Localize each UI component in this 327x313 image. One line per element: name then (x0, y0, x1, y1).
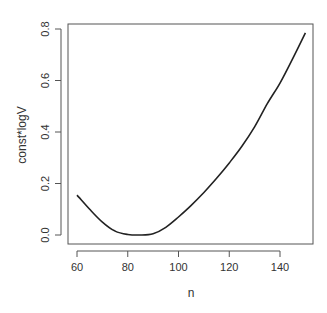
x-axis-label: n (188, 286, 195, 300)
y-tick-label: 0.4 (39, 124, 51, 139)
y-axis: 0.00.20.40.60.8 (39, 21, 61, 242)
x-tick-label: 60 (71, 261, 83, 273)
y-tick-label: 0.6 (39, 73, 51, 88)
y-axis-label: const*logV (15, 106, 29, 163)
y-tick-label: 0.8 (39, 21, 51, 36)
x-tick-label: 100 (169, 261, 187, 273)
data-line (77, 33, 305, 235)
x-tick-label: 80 (122, 261, 134, 273)
y-tick-label: 0.0 (39, 227, 51, 242)
x-axis: 6080100120140 (71, 251, 289, 273)
chart-container: 0.00.20.40.60.8 6080100120140 n const*lo… (0, 0, 327, 313)
x-tick-label: 120 (220, 261, 238, 273)
y-tick-label: 0.2 (39, 176, 51, 191)
plot-frame (68, 24, 313, 244)
x-tick-label: 140 (271, 261, 289, 273)
